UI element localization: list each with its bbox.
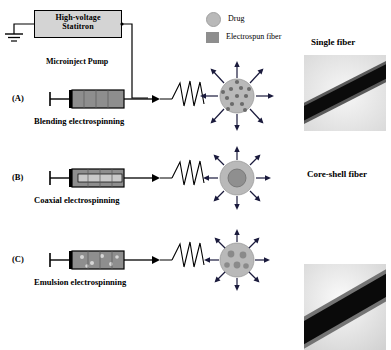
row-caption-b: Coaxial electrospinning <box>34 196 120 205</box>
micrograph-title-core-shell-fiber: Core-shell fiber <box>307 170 367 179</box>
row-caption-c: Emulsion electrospinning <box>34 278 126 287</box>
drug-release-diagram-c <box>192 222 282 298</box>
electrospun-fiber-swatch-icon <box>206 32 219 43</box>
core-shell-fiber-micrograph <box>304 264 386 350</box>
legend-item-drug: Drug <box>206 12 244 27</box>
legend-label-electrospun-fiber: Electrospun fiber <box>226 33 281 41</box>
ground-wire <box>14 24 34 34</box>
row-caption-a: Blending electrospinning <box>34 117 124 126</box>
wire-node <box>120 22 123 25</box>
legend-item-electrospun-fiber: Electrospun fiber <box>206 32 281 43</box>
single-fiber-micrograph <box>304 55 386 131</box>
core-shell-fiber-image <box>304 264 386 350</box>
single-fiber-image <box>304 55 386 131</box>
drug-swatch-icon <box>206 12 221 27</box>
legend-label-drug: Drug <box>228 15 244 23</box>
row-tag-a: (A) <box>12 94 24 103</box>
row-tag-c: (C) <box>12 255 24 264</box>
microinject-pump-label: Microinject Pump <box>46 58 108 66</box>
drug-release-diagram-b <box>192 140 282 216</box>
micrograph-title-single-fiber: Single fiber <box>311 38 355 47</box>
row-tag-b: (B) <box>12 173 23 182</box>
drug-release-diagram-a <box>192 58 282 134</box>
